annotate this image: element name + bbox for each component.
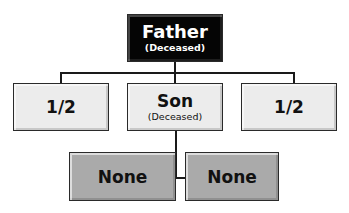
connector-left-child	[60, 72, 62, 83]
grandchild-left-label: None	[98, 167, 148, 187]
left-heir-node: 1/2	[13, 83, 109, 131]
son-node: Son (Deceased)	[127, 83, 223, 131]
father-node: Father (Deceased)	[127, 14, 223, 62]
grandchild-left-node: None	[69, 152, 176, 201]
son-note: (Deceased)	[148, 111, 202, 123]
father-note: (Deceased)	[145, 42, 205, 54]
right-heir-share: 1/2	[274, 97, 304, 117]
connector-horizontal-children	[60, 72, 294, 74]
grandchild-right-node: None	[185, 152, 279, 201]
connector-right-child	[293, 72, 295, 83]
left-heir-share: 1/2	[46, 97, 76, 117]
right-heir-node: 1/2	[241, 83, 337, 131]
son-label: Son	[157, 91, 193, 111]
father-label: Father	[142, 22, 208, 42]
grandchild-right-label: None	[207, 167, 257, 187]
connector-son	[174, 72, 176, 83]
